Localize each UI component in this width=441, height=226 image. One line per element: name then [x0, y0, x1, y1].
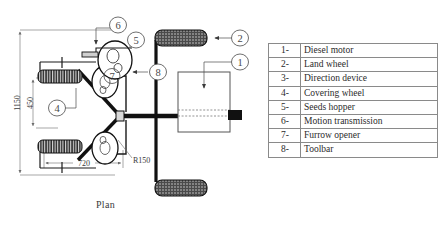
land-wheel-lower: [155, 180, 207, 196]
callout-number: 4: [54, 103, 60, 114]
legend-label: Toolbar: [301, 143, 438, 157]
table-row: 1- Diesel motor: [269, 44, 438, 58]
callout-number: 7: [109, 71, 114, 82]
dimension-text: 1150: [13, 95, 22, 111]
table-row: 5- Seeds hopper: [269, 100, 438, 114]
table-row: 3- Direction device: [269, 72, 438, 86]
dimension-label-450: 450: [26, 97, 35, 109]
legend-table: 1- Diesel motor 2- Land wheel 3- Directi…: [268, 43, 438, 158]
callout-number: 5: [133, 35, 138, 46]
table-row: 7- Furrow opener: [269, 129, 438, 143]
legend-label: Furrow opener: [301, 129, 438, 143]
dimension-label-720: 720: [73, 158, 95, 168]
callout-number: 8: [155, 67, 160, 78]
callout-number: 1: [237, 57, 242, 68]
legend-label: Diesel motor: [301, 44, 438, 58]
legend-number: 2-: [269, 58, 301, 72]
callout-4: 4: [49, 100, 66, 116]
callout-5: 5: [128, 32, 145, 48]
callout-8: 8: [150, 64, 167, 80]
legend-label: Direction device: [301, 72, 438, 86]
legend-label: Covering wheel: [301, 86, 438, 100]
legend-number: 6-: [269, 115, 301, 129]
machine-plan-drawing: 1150 450 720: [0, 0, 270, 226]
table-row: 6- Motion transmission: [269, 115, 438, 129]
table-row: 8- Toolbar: [269, 143, 438, 157]
diesel-motor-box: [178, 72, 242, 132]
figure-caption: Plan: [96, 199, 115, 210]
legend-label: Seeds hopper: [301, 100, 438, 114]
legend-table-wrapper: 1- Diesel motor 2- Land wheel 3- Directi…: [268, 43, 438, 158]
legend-number: 8-: [269, 143, 301, 157]
dimension-label-1150: 1150: [13, 95, 22, 111]
legend-number: 1-: [269, 44, 301, 58]
legend-label: Motion transmission: [301, 115, 438, 129]
legend-number: 4-: [269, 86, 301, 100]
legend-table-body: 1- Diesel motor 2- Land wheel 3- Directi…: [269, 44, 438, 158]
figure-root: 1150 450 720: [0, 0, 441, 226]
covering-wheel-upper: [38, 70, 82, 83]
radius-text: R150: [133, 156, 150, 165]
covering-wheel-lower: [38, 140, 82, 153]
legend-number: 3-: [269, 72, 301, 86]
callout-1: 1: [232, 54, 249, 70]
callout-number: 2: [237, 33, 242, 44]
seeds-hopper-assembly: [82, 41, 132, 79]
furrow-opener-lower: [92, 132, 118, 164]
callout-2: 2: [232, 30, 249, 46]
dimension-text: 450: [26, 97, 35, 109]
legend-label: Land wheel: [301, 58, 438, 72]
callout-number: 6: [115, 20, 120, 31]
land-wheel-upper: [155, 30, 207, 46]
legend-number: 7-: [269, 129, 301, 143]
table-row: 4- Covering wheel: [269, 86, 438, 100]
table-row: 2- Land wheel: [269, 58, 438, 72]
legend-number: 5-: [269, 100, 301, 114]
callout-6: 6: [110, 17, 127, 33]
